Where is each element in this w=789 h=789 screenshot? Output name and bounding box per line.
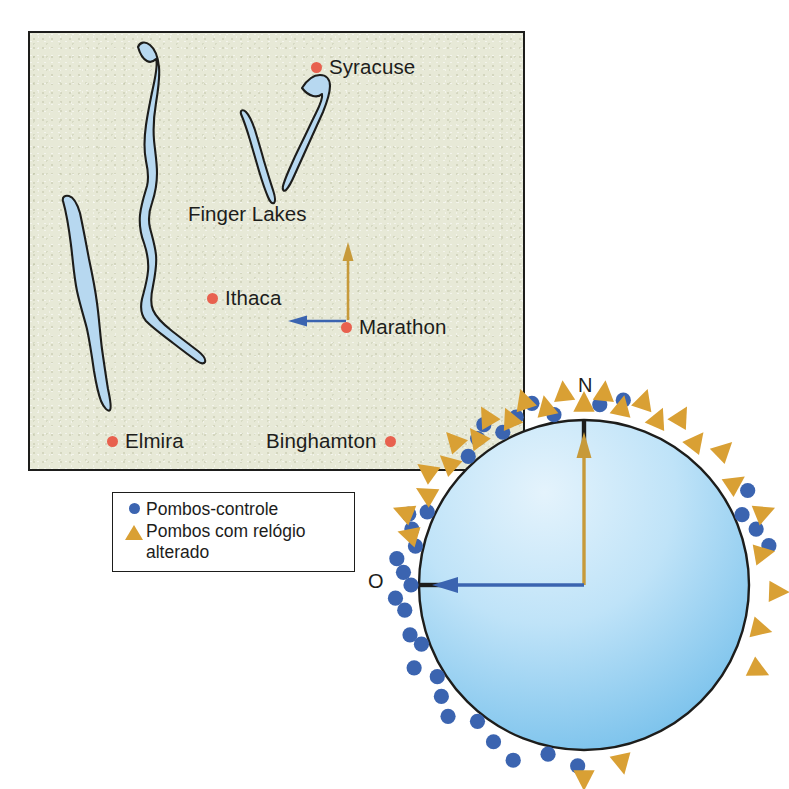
city-dot-icon <box>107 436 118 447</box>
city-dot-icon <box>207 293 218 304</box>
clockshift-point <box>631 389 651 412</box>
legend-label: Pombos com relógio alterado <box>146 521 346 563</box>
clockshift-point <box>440 455 463 477</box>
control-point <box>461 449 476 464</box>
control-point <box>486 734 501 749</box>
control-point <box>396 565 411 580</box>
control-point <box>403 577 418 592</box>
city-syracuse: Syracuse <box>311 55 415 79</box>
clockshift-point <box>710 442 732 464</box>
city-marathon: Marathon <box>341 315 446 339</box>
control-point <box>506 753 521 768</box>
city-label: Marathon <box>359 315 446 339</box>
clockshift-point <box>610 752 631 775</box>
city-ithaca: Ithaca <box>207 286 281 310</box>
legend-box: Pombos-controle Pombos com relógio alter… <box>112 492 355 572</box>
clockshift-point <box>573 770 594 789</box>
legend-dot-icon <box>122 499 146 514</box>
control-point <box>434 689 449 704</box>
control-point <box>540 747 555 762</box>
west-arrow-control <box>288 316 346 327</box>
clockshift-point <box>682 432 703 455</box>
clockshift-point <box>746 657 769 676</box>
clockshift-point <box>417 464 440 485</box>
figure-root: Finger Lakes Syracuse Ithaca Marathon <box>0 0 789 789</box>
control-point <box>740 483 755 498</box>
legend-label: Pombos-controle <box>146 499 278 520</box>
clockshift-point <box>667 407 687 430</box>
clockshift-point <box>769 581 789 602</box>
compass-label-north: N <box>578 374 592 397</box>
control-point <box>397 603 412 618</box>
city-label: Syracuse <box>329 55 415 79</box>
control-point <box>749 521 764 536</box>
legend-triangle-icon <box>122 521 146 540</box>
city-binghamton: Binghamton <box>266 429 396 453</box>
control-point <box>389 551 404 566</box>
control-point <box>420 504 435 519</box>
city-label: Elmira <box>125 429 184 453</box>
legend-item-clockshift: Pombos com relógio alterado <box>122 521 346 563</box>
control-point <box>470 714 485 729</box>
legend-item-control: Pombos-controle <box>122 499 346 520</box>
clockshift-point <box>749 617 772 638</box>
city-elmira: Elmira <box>107 429 184 453</box>
city-dot-icon <box>311 62 322 73</box>
control-point <box>402 627 417 642</box>
clockshift-point <box>554 380 575 402</box>
city-label: Ithaca <box>225 286 281 310</box>
clockshift-point <box>645 408 664 431</box>
clockshift-point <box>416 488 439 508</box>
clockshift-point <box>593 380 614 402</box>
control-point <box>734 507 749 522</box>
circular-scatter-diagram: N O <box>380 370 789 789</box>
control-point <box>440 709 455 724</box>
compass-label-west: O <box>368 570 384 593</box>
control-point <box>388 591 403 606</box>
control-point <box>430 669 445 684</box>
bearing-circle <box>380 370 789 789</box>
city-dot-icon <box>341 322 352 333</box>
control-point <box>407 660 422 675</box>
city-label: Binghamton <box>266 429 376 453</box>
north-arrow-clockshift <box>343 242 354 320</box>
